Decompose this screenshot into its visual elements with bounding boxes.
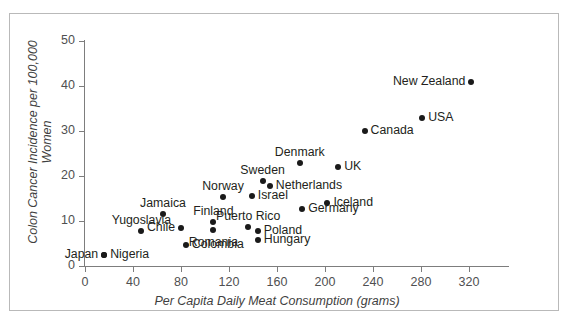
- x-axis-tick: [469, 267, 470, 272]
- data-point-label: Iceland: [333, 196, 373, 209]
- y-axis-tick: [79, 86, 84, 87]
- data-point-label: Nigeria: [110, 248, 149, 261]
- x-axis-tick-label: 280: [401, 276, 441, 289]
- data-point-label: Jamaica: [140, 197, 186, 210]
- data-point[interactable]: [299, 206, 305, 212]
- data-point-label: UK: [344, 160, 361, 173]
- data-point[interactable]: [255, 237, 261, 243]
- data-point[interactable]: [220, 194, 226, 200]
- data-point[interactable]: [362, 128, 368, 134]
- data-point-label: Canada: [371, 124, 414, 137]
- x-axis-tick-label: 0: [65, 276, 105, 289]
- data-point[interactable]: [335, 164, 341, 170]
- y-axis-tick: [79, 221, 84, 222]
- x-axis-tick-label: 80: [161, 276, 201, 289]
- data-point[interactable]: [468, 79, 474, 85]
- x-axis-tick-label: 160: [257, 276, 297, 289]
- x-axis-tick-label: 40: [113, 276, 153, 289]
- data-point[interactable]: [249, 193, 255, 199]
- data-point-label: New Zealand: [393, 75, 465, 88]
- data-point[interactable]: [245, 224, 251, 230]
- scatter-plot-figure: 0102030405004080120160200240280320 Per C…: [0, 0, 570, 328]
- data-point-label: USA: [428, 111, 453, 124]
- plot-area: JapanNigeriaYugoslaviaJamaicaChileColomb…: [85, 41, 469, 266]
- y-axis-tick: [79, 266, 84, 267]
- data-point[interactable]: [210, 227, 216, 233]
- x-axis-tick-label: 200: [305, 276, 345, 289]
- data-point-label: Puerto Rico: [216, 210, 280, 223]
- data-point[interactable]: [255, 228, 261, 234]
- data-point-label: Denmark: [275, 146, 325, 159]
- x-axis-tick-label: 120: [209, 276, 249, 289]
- x-axis-tick: [373, 267, 374, 272]
- data-point-label: Hungary: [264, 233, 310, 246]
- y-axis-title: Colon Cancer Incidence per 100,000 Women: [26, 22, 54, 262]
- data-point[interactable]: [260, 178, 266, 184]
- data-point-label: Norway: [202, 180, 244, 193]
- data-point-label: Chile: [147, 221, 175, 234]
- x-axis-tick: [229, 267, 230, 272]
- data-point-label: Netherlands: [276, 179, 342, 192]
- x-axis-tick: [181, 267, 182, 272]
- x-axis-tick-label: 320: [449, 276, 489, 289]
- x-axis-tick-label: 240: [353, 276, 393, 289]
- data-point[interactable]: [297, 160, 303, 166]
- data-point-label: Romania: [189, 236, 238, 249]
- y-axis-tick: [79, 41, 84, 42]
- x-axis-title: Per Capita Daily Meat Consumption (grams…: [85, 294, 469, 308]
- y-axis-tick: [79, 176, 84, 177]
- data-point[interactable]: [178, 225, 184, 231]
- x-axis-tick: [277, 267, 278, 272]
- data-point-label: Japan: [65, 248, 99, 261]
- data-point-label: Sweden: [240, 164, 284, 177]
- data-point[interactable]: [101, 252, 107, 258]
- y-axis-tick: [79, 131, 84, 132]
- x-axis-tick: [133, 267, 134, 272]
- data-point[interactable]: [138, 228, 144, 234]
- x-axis-tick: [325, 267, 326, 272]
- x-axis-line: [84, 266, 509, 267]
- data-point[interactable]: [419, 115, 425, 121]
- x-axis-tick: [421, 267, 422, 272]
- x-axis-tick: [85, 267, 86, 272]
- data-point[interactable]: [267, 183, 273, 189]
